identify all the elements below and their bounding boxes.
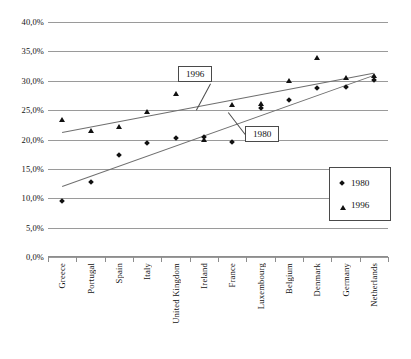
triangle-icon [258,101,264,106]
x-axis-tickmark [76,257,77,262]
triangle-icon [116,124,122,129]
gridline [48,81,388,82]
x-axis-tickmark [48,257,49,262]
x-axis-tickmark [388,257,389,262]
x-axis-tickmark [331,257,332,262]
x-axis-category-label: Germany [341,263,351,296]
gridline [48,110,388,111]
gridline [48,228,388,229]
x-axis-category-labels: GreecePortugalSpainItalyUnited KingdomIr… [48,263,388,355]
diamond-icon [88,179,94,185]
x-axis-category-label: France [227,263,237,288]
legend-label-1996: 1996 [351,200,369,210]
gridline [48,22,388,23]
y-axis-tick-label: 20,0% [22,135,44,145]
y-axis-tick-label: 40,0% [22,17,44,27]
trendline-1980 [62,75,374,187]
triangle-icon [229,102,235,107]
legend-item-1996: 1996 [340,200,369,210]
triangle-icon [173,91,179,96]
x-axis-category-label: Greece [57,263,67,289]
x-axis-tickmark [190,257,191,262]
gridline [48,140,388,141]
x-axis-category-label: Netherlands [369,263,379,307]
y-axis-tick-labels: 40,0%35,0%30,0%25,0%20,0%15,0%10,0%5,0%0… [0,22,44,257]
x-axis-category-label: Spain [114,263,124,284]
x-axis-tickmark [303,257,304,262]
x-axis-tickmark [360,257,361,262]
gridline [48,51,388,52]
y-axis-tick-label: 5,0% [26,223,44,233]
y-axis-tick-label: 15,0% [22,164,44,174]
plot-area [48,22,388,257]
legend: 1980 1996 [329,167,391,221]
x-axis-category-label: Belgium [284,263,294,294]
y-axis-tick-label: 35,0% [22,46,44,56]
diamond-icon [116,153,122,159]
x-axis-category-label: Luxembourg [256,263,266,309]
callout-1996: 1996 [178,66,212,82]
x-axis-tickmark [161,257,162,262]
x-axis-category-label: United Kingdom [171,263,181,324]
diamond-icon [229,140,235,146]
x-axis-tickmark [105,257,106,262]
y-axis-tick-label: 25,0% [22,105,44,115]
triangle-icon [144,109,150,114]
scatter-chart: 40,0%35,0%30,0%25,0%20,0%15,0%10,0%5,0%0… [0,0,411,359]
x-axis-category-label: Italy [142,263,152,280]
x-axis-category-label: Denmark [312,263,322,296]
y-axis-tick-label: 30,0% [22,76,44,86]
triangle-icon [59,117,65,122]
x-axis-tickmark [275,257,276,262]
y-axis-tick-label: 10,0% [22,193,44,203]
x-axis-category-label: Portugal [86,263,96,294]
triangle-icon [371,73,377,78]
legend-item-1980: 1980 [340,178,369,188]
diamond-icon [286,97,292,103]
triangle-icon [286,78,292,83]
legend-label-1980: 1980 [351,178,369,188]
callout-1980: 1980 [245,126,279,142]
triangle-icon [88,128,94,133]
x-axis-category-label: Ireland [199,263,209,289]
triangle-icon [314,55,320,60]
y-axis-tick-label: 0,0% [26,252,44,262]
diamond-icon [144,140,150,146]
x-axis-tickmark [218,257,219,262]
triangle-icon [201,137,207,142]
x-axis-tickmark [133,257,134,262]
triangle-icon [343,75,349,80]
diamond-icon [314,85,320,91]
x-axis-tickmark [246,257,247,262]
